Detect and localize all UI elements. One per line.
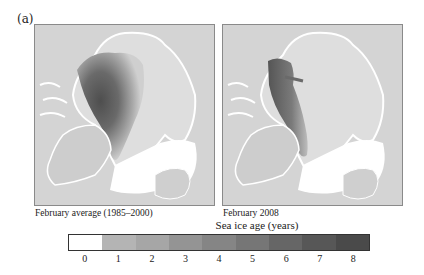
colorbar-tick-label: 7 (303, 253, 337, 267)
colorbar-segment (102, 235, 135, 250)
colorbar-tick-label: 5 (236, 253, 270, 267)
colorbar-tick-label: 2 (135, 253, 169, 267)
arctic-map-left (35, 25, 215, 206)
colorbar-segment (269, 235, 302, 250)
colorbar-tick-label: 0 (68, 253, 102, 267)
colorbar-tick-label: 8 (337, 253, 371, 267)
map-february-2008 (222, 24, 403, 206)
colorbar-tick-label: 1 (102, 253, 136, 267)
panel-label: (a) (17, 12, 34, 26)
colorbar-segment (336, 235, 369, 250)
map-february-average (34, 24, 215, 206)
colorbar-tick-label: 6 (269, 253, 303, 267)
colorbar-segment (202, 235, 235, 250)
colorbar-ticks: 012345678 (68, 253, 370, 267)
colorbar-segment (69, 235, 102, 250)
colorbar-tick-label: 3 (169, 253, 203, 267)
colorbar-segment (136, 235, 169, 250)
colorbar-segment (302, 235, 335, 250)
colorbar-tick-label: 4 (202, 253, 236, 267)
colorbar-segment (236, 235, 269, 250)
colorbar-title: Sea ice age (years) (0, 219, 424, 231)
map-caption-left: February average (1985–2000) (35, 208, 153, 218)
arctic-map-right (223, 25, 403, 206)
map-caption-right: February 2008 (223, 208, 279, 218)
colorbar (68, 234, 370, 251)
colorbar-segment (169, 235, 202, 250)
